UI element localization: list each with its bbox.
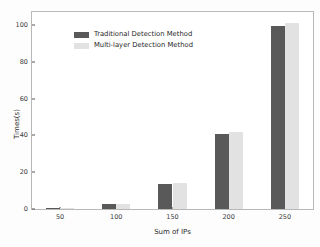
y-tick-label: 0 [24,205,28,213]
plot-area: 0 20 40 60 80 100 50 100 150 200 250 [31,11,314,210]
legend-swatch-icon [74,43,89,49]
y-tick-label: 100 [16,21,28,29]
legend-label: Multi-layer Detection Method [94,42,193,49]
legend-swatch-icon [74,32,89,38]
x-tick-label: 50 [56,213,64,221]
bar-traditional-150[interactable] [158,184,172,209]
y-tick-label: 40 [20,131,28,139]
legend: Traditional Detection Method Multi-layer… [71,28,197,53]
bar-traditional-50[interactable] [46,208,60,209]
bar-multilayer-100[interactable] [116,204,130,209]
bar-chart-figure: Times(s) 0 20 40 60 80 100 50 100 150 20… [0,0,320,247]
y-tick-label: 60 [20,95,28,103]
bar-multilayer-250[interactable] [285,23,299,209]
x-tick-label: 250 [279,213,291,221]
y-tick-mark [32,24,35,25]
y-tick-label: 80 [20,58,28,66]
y-tick-label: 20 [20,168,28,176]
bar-multilayer-50[interactable] [60,208,74,209]
y-tick-mark [32,209,35,210]
legend-label: Traditional Detection Method [94,31,192,38]
x-axis-label: Sum of IPs [31,228,314,236]
bar-multilayer-200[interactable] [229,132,243,209]
legend-item-traditional[interactable]: Traditional Detection Method [74,30,193,39]
bar-traditional-250[interactable] [271,26,285,209]
bar-multilayer-150[interactable] [173,183,187,209]
bar-traditional-100[interactable] [102,204,116,209]
x-tick-label: 200 [222,213,234,221]
bar-traditional-200[interactable] [215,134,229,209]
y-tick-mark [32,172,35,173]
x-tick-label: 150 [166,213,178,221]
legend-item-multilayer[interactable]: Multi-layer Detection Method [74,41,193,50]
y-tick-mark [32,98,35,99]
y-tick-mark [32,135,35,136]
x-tick-label: 100 [110,213,122,221]
y-tick-mark [32,61,35,62]
